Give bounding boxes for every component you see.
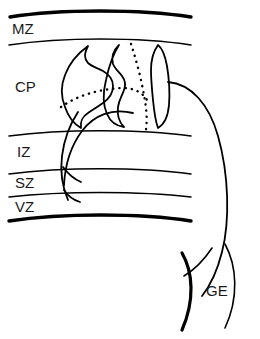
ge-left-boundary-arc <box>182 253 191 330</box>
pyramidal-neuron-middle-soma <box>104 45 125 127</box>
pial-surface-boundary <box>10 11 191 17</box>
diagram-canvas: MZ CP IZ SZ VZ GE <box>0 0 260 339</box>
mz-cp-boundary <box>9 39 191 45</box>
cp-iz-boundary <box>9 131 191 136</box>
zone-label-iz: IZ <box>17 143 30 160</box>
zone-label-mz: MZ <box>12 20 34 37</box>
ventricular-surface-boundary <box>9 215 191 221</box>
radial-migration-dotted-path <box>131 44 147 130</box>
pyramidal-neuron-right-soma <box>151 45 169 128</box>
zone-labels-group: MZ CP IZ SZ VZ GE <box>12 20 228 299</box>
zone-label-vz: VZ <box>15 198 34 215</box>
sz-vz-boundary <box>9 193 191 198</box>
zone-label-ge: GE <box>206 282 228 299</box>
ge-to-cortex-migration-arc <box>168 82 227 296</box>
cortical-zones-diagram: MZ CP IZ SZ VZ GE <box>0 0 260 339</box>
zone-label-sz: SZ <box>15 174 34 191</box>
zone-label-cp: CP <box>15 78 36 95</box>
iz-sz-boundary <box>9 169 191 174</box>
cortical-plate-neurons-group <box>62 45 169 128</box>
